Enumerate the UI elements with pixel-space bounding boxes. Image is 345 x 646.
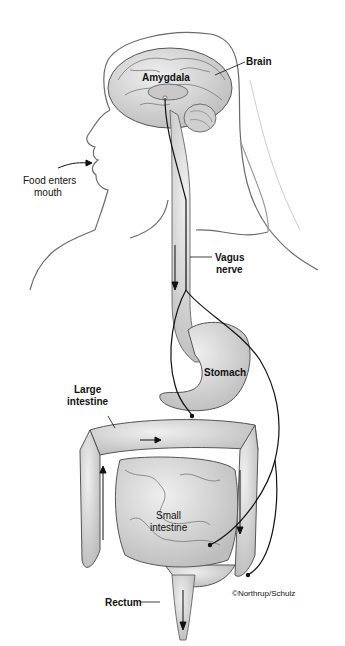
label-vagus-line1: Vagus [215,252,244,263]
label-large-line1: Large [74,384,101,395]
label-small-line1: Small [156,510,181,521]
label-small-line2: intestine [150,522,187,533]
label-food-line2: mouth [34,187,62,198]
label-brain: Brain [246,56,272,67]
label-vagus-line2: nerve [216,264,243,275]
label-rectum: Rectum [105,597,142,608]
anatomy-illustration [0,0,345,646]
label-large-line2: intestine [67,396,108,407]
label-stomach: Stomach [204,367,246,378]
brain-illustration [108,48,232,132]
label-food-line1: Food enters [23,175,76,186]
credit-text: ©Northrup/Schulz [232,588,295,599]
label-amygdala: Amygdala [142,72,190,83]
